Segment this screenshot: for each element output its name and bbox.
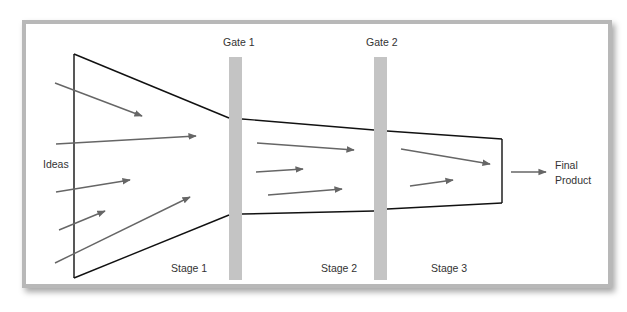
funnel-outline (74, 54, 502, 278)
ideas-label: Ideas (43, 158, 69, 170)
stage-1-label: Stage 1 (171, 262, 207, 274)
final-product-line-2: Product (555, 173, 605, 188)
gate-2-label: Gate 2 (366, 36, 398, 48)
stage-2-label: Stage 2 (321, 262, 357, 274)
final-product-line-1: Final (555, 158, 605, 173)
stage-gate-diagram (0, 0, 627, 312)
stage-3-label: Stage 3 (431, 262, 467, 274)
gate-1-bar (229, 57, 242, 280)
gate-1-label: Gate 1 (223, 36, 255, 48)
gate-2-bar (374, 57, 387, 280)
idea-arrows (55, 83, 546, 263)
final-product-label: Final Product (555, 158, 605, 188)
